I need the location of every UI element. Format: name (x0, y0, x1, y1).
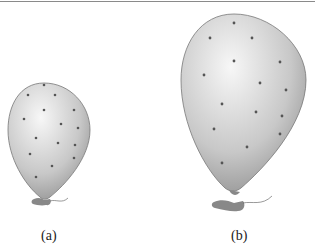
balloon-b-knot (212, 200, 245, 211)
balloon-a-string (50, 198, 68, 201)
panel-label-b: (b) (231, 228, 247, 244)
balloon-figure (0, 0, 315, 249)
balloon-b-string (243, 196, 272, 203)
balloon-b (181, 14, 306, 211)
balloon-a (8, 83, 90, 205)
panel-label-a: (a) (41, 228, 57, 244)
balloon-a-knot (32, 198, 51, 206)
